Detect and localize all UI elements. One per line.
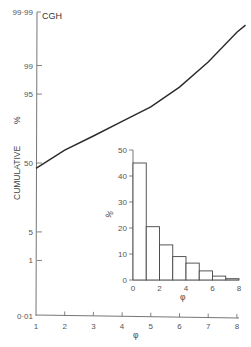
main-y-axis bbox=[36, 12, 37, 316]
x-tick-label: 6 bbox=[177, 322, 182, 331]
histogram-bar bbox=[213, 276, 226, 280]
y-tick-label: 95 bbox=[24, 90, 33, 99]
inset-y-tick-label: 10 bbox=[118, 250, 127, 259]
inset-x-axis-label: φ bbox=[180, 292, 186, 302]
main-x-ticks: 12345678 bbox=[34, 311, 240, 331]
x-tick-label: 5 bbox=[149, 322, 154, 331]
histogram-bar bbox=[146, 227, 159, 280]
x-tick-label: 4 bbox=[120, 322, 125, 331]
x-tick-label: 3 bbox=[91, 322, 96, 331]
histogram-bar bbox=[173, 257, 186, 280]
x-tick-label: 2 bbox=[62, 322, 67, 331]
chart-figure: 0·011550959999·99 12345678 CGH CUMULATIV… bbox=[0, 0, 251, 347]
inset-y-tick-label: 30 bbox=[118, 198, 127, 207]
inset-bars bbox=[133, 163, 239, 280]
histogram-bar bbox=[199, 271, 212, 280]
inset-y-axis-label: % bbox=[103, 208, 116, 220]
x-tick-label: 7 bbox=[206, 322, 211, 331]
y-tick-label: 99·99 bbox=[13, 8, 34, 17]
inset-y-tick-label: 0 bbox=[123, 276, 128, 285]
inset-x-tick-label: 2 bbox=[157, 284, 162, 293]
inset-histogram: 01020304050 02468 % φ bbox=[103, 146, 242, 302]
x-tick-label: 8 bbox=[235, 322, 240, 331]
x-tick-label: 1 bbox=[34, 322, 39, 331]
y-tick-label: 99 bbox=[24, 62, 33, 71]
inset-x-ticks: 02468 bbox=[131, 284, 242, 293]
chart-title: CGH bbox=[42, 11, 62, 21]
inset-y-tick-label: 40 bbox=[118, 172, 127, 181]
inset-x-tick-label: 6 bbox=[210, 284, 215, 293]
y-tick-label: 0·01 bbox=[17, 312, 34, 321]
main-x-axis-label: φ bbox=[133, 330, 139, 340]
main-y-axis-unit: % bbox=[12, 116, 22, 124]
inset-y-tick-label: 20 bbox=[118, 224, 127, 233]
y-tick-label: 1 bbox=[29, 256, 34, 265]
histogram-bar bbox=[226, 279, 239, 280]
inset-y-tick-label: 50 bbox=[118, 146, 127, 155]
histogram-bar bbox=[160, 245, 173, 280]
cumulative-curve bbox=[36, 25, 246, 168]
y-tick-label: 5 bbox=[29, 228, 34, 237]
inset-y-ticks: 01020304050 bbox=[118, 146, 133, 285]
main-y-axis-label: CUMULATIVE bbox=[12, 146, 22, 200]
histogram-bar bbox=[186, 263, 199, 280]
inset-x-tick-label: 8 bbox=[237, 284, 242, 293]
inset-x-tick-label: 0 bbox=[131, 284, 136, 293]
y-tick-label: 50 bbox=[24, 159, 33, 168]
histogram-bar bbox=[133, 163, 146, 280]
